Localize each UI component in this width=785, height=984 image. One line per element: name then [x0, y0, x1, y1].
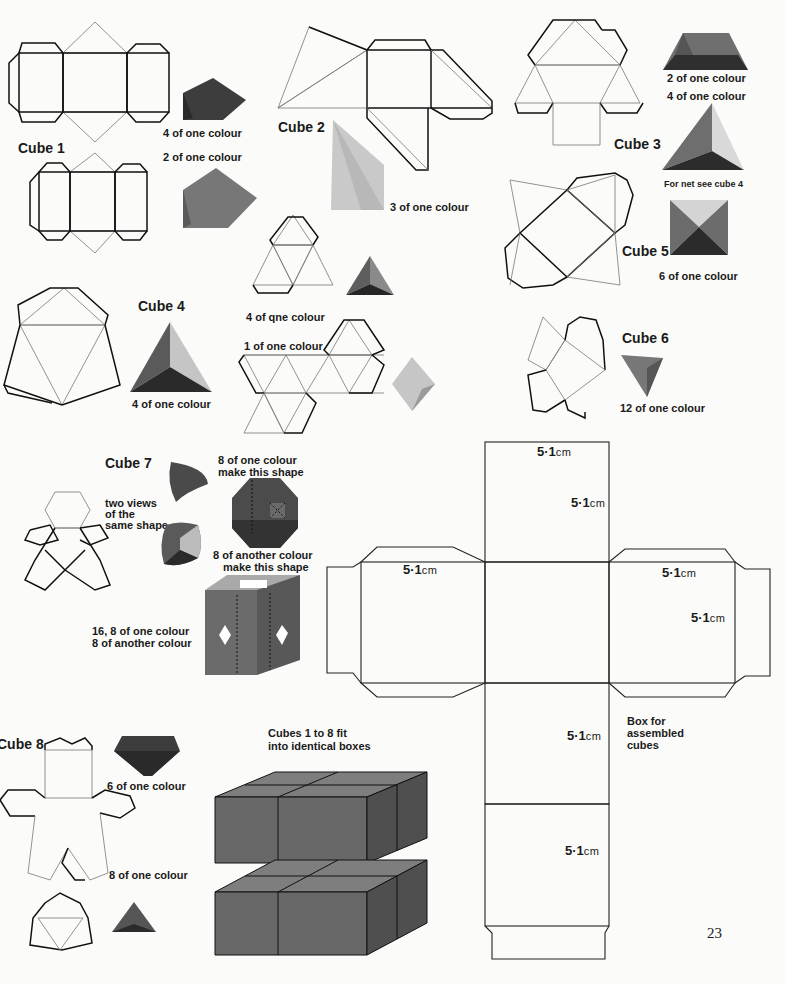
cube7-net — [20, 490, 115, 600]
cube5-pyramid-piece — [670, 200, 730, 256]
dim-value: 5·1 — [403, 562, 422, 577]
cube6-tetra-piece — [621, 355, 666, 400]
cube1-title: Cube 1 — [18, 140, 65, 156]
box-dim-lower1: 5·1cm — [567, 728, 601, 743]
cube3-note-1: 2 of one colour — [667, 72, 746, 85]
dim-value: 5·1 — [662, 565, 681, 580]
box-dim-right-side: 5·1cm — [691, 610, 725, 625]
dim-value: 5·1 — [567, 728, 586, 743]
dim-unit: cm — [556, 446, 572, 458]
cube6-net — [523, 310, 613, 415]
box-dim-left: 5·1cm — [403, 562, 437, 577]
cube1-note-2: 2 of one colour — [163, 151, 242, 164]
box-dim-lower2: 5·1cm — [565, 843, 599, 858]
cube7-title: Cube 7 — [105, 455, 152, 471]
dim-unit: cm — [710, 612, 726, 624]
cube3-net — [515, 15, 650, 150]
cube3-note-2: 4 of one colour — [667, 90, 746, 103]
dim-unit: cm — [681, 567, 697, 579]
dim-unit: cm — [422, 564, 438, 576]
cube1-net-top — [0, 0, 180, 150]
cube7-note-7: make this shape — [223, 561, 309, 574]
cube4-net — [0, 285, 130, 415]
cube3-title: Cube 3 — [614, 136, 661, 152]
cube4-tetra-piece — [130, 322, 215, 394]
dim-value: 5·1 — [691, 610, 710, 625]
cube4-octa-piece — [392, 357, 437, 412]
cube2-note-1: 3 of one colour — [390, 201, 469, 214]
dim-value: 5·1 — [571, 495, 590, 510]
dim-unit: cm — [586, 730, 602, 742]
cube2-title: Cube 2 — [278, 119, 325, 135]
cube7-view-b — [158, 520, 206, 570]
cube4-small-tetra — [346, 256, 396, 296]
cube7-view-a — [166, 462, 211, 504]
cube5-note-1: 6 of one colour — [659, 270, 738, 283]
cube3-note-3: For net see cube 4 — [664, 178, 743, 191]
cube7-truncated-cube — [230, 478, 300, 550]
cube7-note-9: 8 of another colour — [92, 637, 192, 650]
cube3-trapezoid-piece — [663, 33, 748, 73]
cube4-note-1: 4 of one colour — [132, 398, 211, 411]
page-number: 23 — [707, 925, 722, 942]
cube1-grey-prism — [183, 168, 258, 230]
dim-unit: cm — [590, 497, 606, 509]
dim-value: 5·1 — [565, 843, 584, 858]
cube8-tetra-piece — [112, 902, 157, 934]
cube4-title: Cube 4 — [138, 298, 185, 314]
cube7-hollow-cube — [205, 575, 305, 677]
cube6-note-1: 12 of one colour — [620, 402, 705, 415]
cube8-note-1: 6 of one colour — [107, 780, 186, 793]
cube1-note-1: 4 of one colour — [163, 127, 242, 140]
box-net — [325, 440, 775, 960]
cube8-gem-piece — [114, 736, 182, 778]
cube2-pyramid-piece — [331, 120, 391, 212]
dim-value: 5·1 — [537, 444, 556, 459]
cube8-note-2: 8 of one colour — [109, 869, 188, 882]
cube3-tetra-piece — [662, 103, 747, 173]
dim-unit: cm — [584, 845, 600, 857]
box-dim-top: 5·1cm — [537, 444, 571, 459]
cube1-net-bottom — [0, 145, 180, 255]
cube5-title: Cube 5 — [622, 243, 669, 259]
box-dim-top-side: 5·1cm — [571, 495, 605, 510]
box-caption-3: cubes — [627, 739, 659, 752]
cube6-title: Cube 6 — [622, 330, 669, 346]
cube4-small-net — [248, 215, 348, 300]
cube5-net — [505, 170, 645, 295]
box-dim-right: 5·1cm — [662, 565, 696, 580]
cube1-dark-prism — [183, 78, 248, 123]
